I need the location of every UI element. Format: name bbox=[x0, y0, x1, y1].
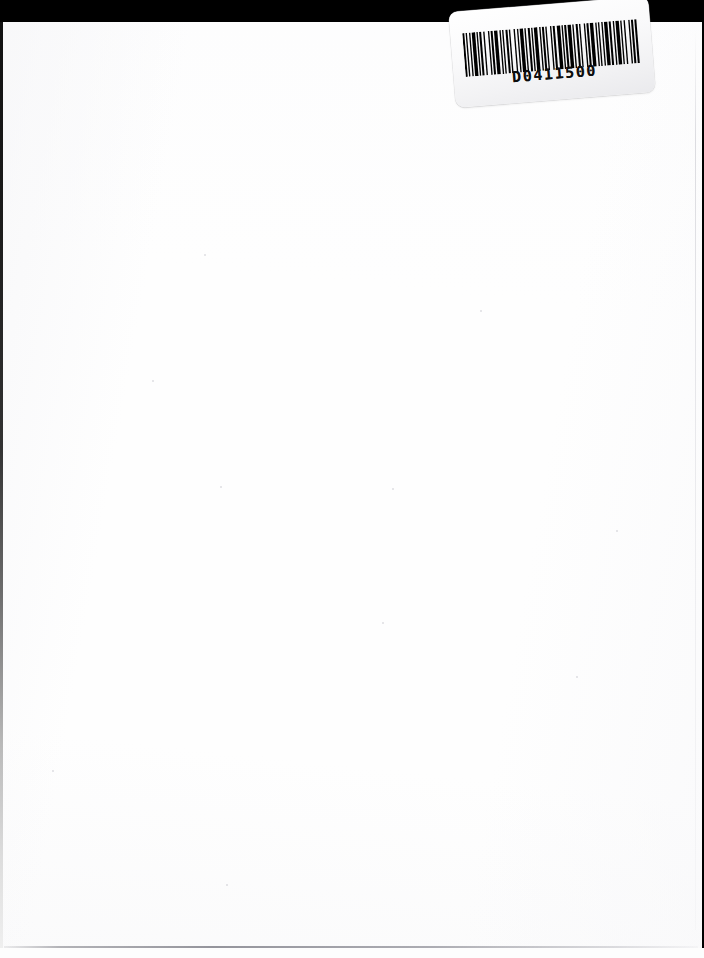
sheet-right-edge bbox=[695, 30, 696, 930]
barcode-label[interactable]: D0411500 bbox=[448, 0, 655, 108]
scanner-speck bbox=[152, 380, 154, 382]
scanner-speck bbox=[220, 486, 222, 488]
scanned-page: D0411500 bbox=[0, 0, 704, 958]
scanner-speck bbox=[52, 770, 54, 772]
scanner-speck bbox=[204, 254, 206, 256]
sheet-bottom-edge bbox=[4, 946, 698, 948]
scanner-speck bbox=[226, 884, 228, 886]
scanner-speck bbox=[576, 676, 578, 678]
paper-tone-overlay bbox=[2, 22, 702, 948]
sheet-left-edge bbox=[0, 22, 3, 948]
paper-sheet bbox=[2, 22, 702, 948]
scanner-speck bbox=[616, 530, 618, 532]
scanner-speck bbox=[382, 622, 384, 624]
scanner-speck bbox=[392, 488, 394, 490]
sheet-bottom-backdrop bbox=[0, 948, 704, 958]
scanner-speck bbox=[480, 310, 482, 312]
